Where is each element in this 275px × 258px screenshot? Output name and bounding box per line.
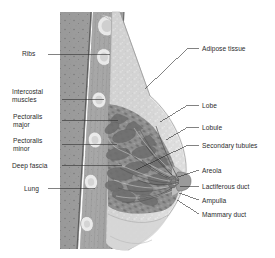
label-pectoralis-minor: Pectoralisminor bbox=[13, 137, 42, 152]
anatomy-illustration bbox=[0, 0, 275, 258]
label-adipose-tissue-line-1: Adipose tissue bbox=[202, 45, 246, 53]
label-lobule: Lobule bbox=[202, 124, 222, 132]
leader-line-ampulla bbox=[179, 193, 199, 200]
label-mammary-duct-line-1: Mammary duct bbox=[202, 211, 246, 219]
label-ribs: Ribs bbox=[22, 50, 35, 58]
label-deep-fascia: Deep fascia bbox=[12, 162, 47, 170]
label-lung-line-1: Lung bbox=[24, 185, 39, 193]
label-lobe: Lobe bbox=[202, 102, 217, 110]
label-lactiferous-duct-line-1: Lactiferous duct bbox=[202, 183, 249, 191]
label-secondary-tubules-line-1: Secondary tubules bbox=[202, 142, 257, 150]
nipple-shape bbox=[175, 172, 191, 191]
label-lobule-line-1: Lobule bbox=[202, 124, 222, 132]
label-pectoralis-major-line-1: Pectoralis bbox=[13, 113, 42, 121]
label-adipose-tissue: Adipose tissue bbox=[202, 45, 246, 53]
breast-anatomy-figure: RibsIntercostalmusclesPectoralismajorPec… bbox=[0, 0, 275, 258]
label-deep-fascia-line-1: Deep fascia bbox=[12, 162, 47, 170]
leader-line-adipose-tissue bbox=[145, 48, 199, 89]
label-pectoralis-major-line-2: major bbox=[13, 121, 42, 129]
label-areola-line-1: Areola bbox=[202, 167, 221, 175]
leader-line-mammary-duct bbox=[177, 200, 199, 214]
label-lung: Lung bbox=[24, 185, 39, 193]
label-intercostal-muscles: Intercostalmuscles bbox=[12, 88, 43, 103]
label-intercostal-muscles-line-1: Intercostal bbox=[12, 88, 43, 96]
label-mammary-duct: Mammary duct bbox=[202, 211, 246, 219]
label-ribs-line-1: Ribs bbox=[22, 50, 35, 58]
label-pectoralis-minor-line-2: minor bbox=[13, 145, 42, 153]
label-ampulla-line-1: Ampulla bbox=[202, 197, 226, 205]
label-secondary-tubules: Secondary tubules bbox=[202, 142, 257, 150]
label-lactiferous-duct: Lactiferous duct bbox=[202, 183, 249, 191]
label-lobe-line-1: Lobe bbox=[202, 102, 217, 110]
label-ampulla: Ampulla bbox=[202, 197, 226, 205]
label-pectoralis-major: Pectoralismajor bbox=[13, 113, 42, 128]
label-intercostal-muscles-line-2: muscles bbox=[12, 96, 43, 104]
label-pectoralis-minor-line-1: Pectoralis bbox=[13, 137, 42, 145]
label-areola: Areola bbox=[202, 167, 221, 175]
